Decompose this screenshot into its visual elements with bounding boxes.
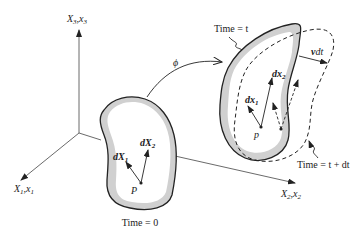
mapping-label: ϕ <box>173 57 178 68</box>
time-t-dt-label: Time = t + dt <box>297 159 350 170</box>
x3-axis-label: X3,x3 <box>66 13 88 26</box>
velocity-vector <box>299 56 327 63</box>
x1-axis-label: X1,x1 <box>13 183 34 196</box>
x2-axis-label: X2,x2 <box>280 188 302 201</box>
point-P <box>139 181 142 184</box>
x1-axis <box>21 133 79 180</box>
time-t-dt-leader <box>309 141 318 158</box>
x2-axis-segment-hidden <box>79 133 101 140</box>
current-body <box>220 24 301 161</box>
mapping-arrow <box>147 61 222 97</box>
point-p-label: p <box>253 129 259 140</box>
point-P-label: P <box>130 185 137 196</box>
continuum-deformation-diagram: X3,x3 X1,x1 X2,x2 ϕ P dX1 dX2 Time = 0 p… <box>0 0 364 238</box>
point-p <box>259 125 262 128</box>
time-t-leader <box>229 37 242 50</box>
velocity-label: vdt <box>311 46 323 57</box>
time-zero-label: Time = 0 <box>122 217 158 228</box>
time-t-label: Time = t <box>214 23 248 34</box>
point-p-next <box>279 127 282 130</box>
reference-body <box>100 97 176 210</box>
